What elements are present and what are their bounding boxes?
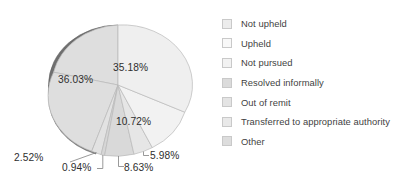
slice-value-other: 36.03% (58, 74, 93, 85)
slice-value-not-upheld: 35.18% (113, 62, 148, 73)
slice-value-resolved-informally: 8.63% (124, 162, 153, 173)
legend-swatch-icon (222, 58, 232, 68)
legend-swatch-icon (222, 117, 232, 127)
legend-item-upheld[interactable]: Upheld (222, 34, 415, 54)
legend-item-other[interactable]: Other (222, 132, 415, 152)
legend-swatch-icon (222, 78, 232, 88)
slice-value-not-pursued: 5.98% (150, 150, 179, 161)
legend-item-transferred[interactable]: Transferred to appropriate authority (222, 112, 415, 132)
chart-legend: Not upheld Upheld Not pursued Resolved i… (222, 14, 415, 151)
legend-item-label: Not pursued (241, 57, 293, 68)
legend-swatch-icon (222, 136, 232, 146)
legend-item-label: Other (241, 136, 265, 147)
legend-swatch-icon (222, 97, 232, 107)
legend-item-label: Upheld (241, 38, 271, 49)
legend-item-out-of-remit[interactable]: Out of remit (222, 92, 415, 112)
slice-value-transferred: 2.52% (14, 152, 43, 163)
legend-item-not-pursued[interactable]: Not pursued (222, 53, 415, 73)
legend-swatch-icon (222, 38, 232, 48)
legend-swatch-icon (222, 19, 232, 29)
legend-item-resolved-informally[interactable]: Resolved informally (222, 73, 415, 93)
pie-chart-svg (0, 0, 215, 196)
legend-item-not-upheld[interactable]: Not upheld (222, 14, 415, 34)
slice-value-out-of-remit: 0.94% (62, 162, 91, 173)
legend-item-label: Transferred to appropriate authority (241, 116, 390, 127)
pie-chart-figure: 35.18% 36.03% 10.72% 5.98% 8.63% 0.94% 2… (0, 0, 415, 196)
pie-chart-plot-area: 35.18% 36.03% 10.72% 5.98% 8.63% 0.94% 2… (0, 0, 215, 196)
legend-item-label: Not upheld (241, 18, 287, 29)
legend-item-label: Out of remit (241, 97, 291, 108)
legend-item-label: Resolved informally (241, 77, 324, 88)
pie-slices (48, 25, 192, 156)
slice-value-upheld: 10.72% (116, 116, 151, 127)
